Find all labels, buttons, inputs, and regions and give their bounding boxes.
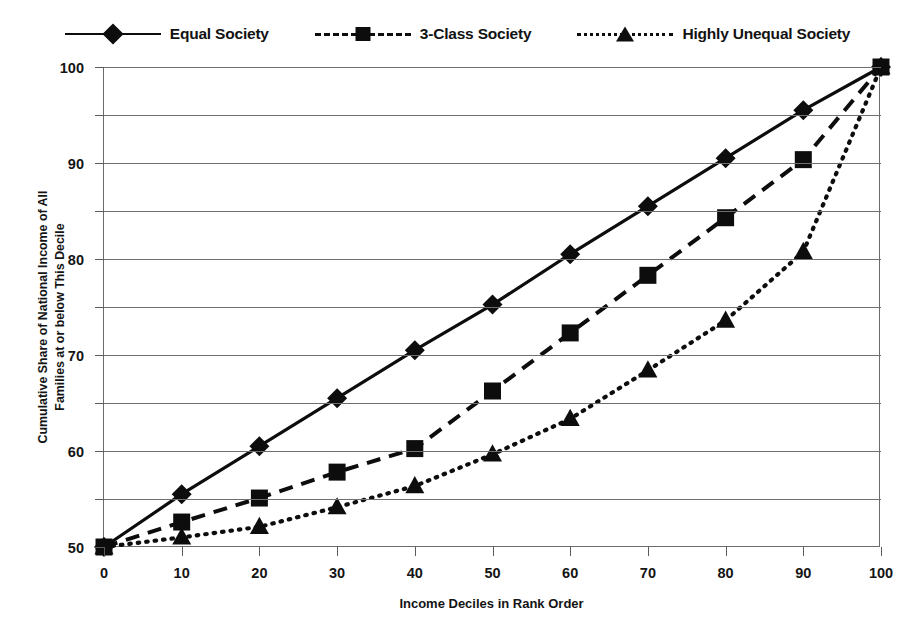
chart-figure: Equal Society3-Class SocietyHighly Unequ…: [0, 0, 915, 634]
x-tick-label-80: 80: [718, 565, 734, 581]
x-tick-100: [881, 547, 882, 556]
x-tick-40: [415, 547, 416, 556]
data-point-marker-triangle: [794, 242, 813, 259]
data-point-marker-triangle: [638, 360, 657, 377]
x-tick-70: [648, 547, 649, 556]
x-tick-60: [570, 547, 571, 556]
x-tick-label-90: 90: [795, 565, 811, 581]
y-tick-70: 70: [95, 211, 104, 212]
y-tick-label-100: 100: [60, 60, 84, 76]
gridline-y-90: [104, 115, 881, 116]
chart-legend: Equal Society3-Class SocietyHighly Unequ…: [0, 16, 915, 52]
gridline-y-60: [104, 259, 881, 260]
y-tick-label-50: 50: [68, 540, 84, 556]
y-tick-0: 0: [95, 547, 104, 548]
y-tick-label-60: 60: [68, 444, 84, 460]
data-point-marker-square: [562, 324, 579, 341]
x-tick-label-60: 60: [562, 565, 578, 581]
data-point-marker-diamond: [249, 436, 269, 456]
legend-swatch-square-icon: [315, 23, 411, 45]
data-point-marker-diamond: [405, 340, 425, 360]
legend-swatch-diamond-icon: [65, 23, 161, 45]
y-tick-label-70: 70: [68, 348, 84, 364]
y-tick-90: 90: [95, 115, 104, 116]
data-point-marker-square: [484, 383, 501, 400]
x-tick-20: [259, 547, 260, 556]
x-tick-label-40: 40: [407, 565, 423, 581]
data-point-marker-diamond: [638, 196, 658, 216]
data-point-marker-diamond: [560, 244, 580, 264]
y-tick-label-90: 90: [68, 156, 84, 172]
legend-marker-diamond-icon: [102, 23, 123, 44]
gridline-y-100: [104, 67, 881, 68]
data-point-marker-square: [795, 151, 812, 168]
legend-item-label: Equal Society: [170, 25, 269, 43]
legend-item-1[interactable]: 3-Class Society: [315, 23, 532, 45]
x-tick-10: [182, 547, 183, 556]
x-tick-0: [104, 547, 105, 556]
data-point-marker-diamond: [172, 484, 192, 504]
x-tick-label-20: 20: [251, 565, 267, 581]
y-tick-20: 20: [95, 451, 104, 452]
x-tick-label-10: 10: [174, 565, 190, 581]
gridline-y-10: [104, 499, 881, 500]
legend-marker-triangle-icon: [616, 27, 634, 42]
x-tick-label-50: 50: [484, 565, 500, 581]
data-point-marker-diamond: [327, 388, 347, 408]
x-tick-label-30: 30: [329, 565, 345, 581]
data-point-marker-square: [639, 267, 656, 284]
plot-area: 0102030405060708090100010203040506070809…: [103, 67, 880, 547]
y-tick-label-80: 80: [68, 252, 84, 268]
gridline-y-50: [104, 307, 881, 308]
y-tick-80: 80: [95, 163, 104, 164]
data-point-marker-diamond: [483, 295, 503, 315]
y-tick-40: 40: [95, 355, 104, 356]
data-point-marker-square: [406, 440, 423, 457]
y-tick-100: 100: [95, 67, 104, 68]
data-point-marker-diamond: [716, 148, 736, 168]
y-axis-label: Cumulative Share of National Income of A…: [35, 107, 69, 527]
gridline-y-30: [104, 403, 881, 404]
gridline-y-80: [104, 163, 881, 164]
x-tick-label-0: 0: [100, 565, 108, 581]
data-point-marker-triangle: [561, 409, 580, 426]
legend-item-label: 3-Class Society: [420, 25, 532, 43]
gridline-y-70: [104, 211, 881, 212]
x-tick-label-70: 70: [640, 565, 656, 581]
legend-item-label: Highly Unequal Society: [682, 25, 850, 43]
y-axis-label-line2: Families at or below This Decile: [52, 107, 69, 527]
y-axis-label-line1: Cumulative Share of National Income of A…: [36, 191, 50, 444]
y-tick-30: 30: [95, 403, 104, 404]
gridline-y-40: [104, 355, 881, 356]
x-tick-30: [337, 547, 338, 556]
gridline-y-20: [104, 451, 881, 452]
legend-swatch-triangle-icon: [577, 23, 673, 45]
y-tick-60: 60: [95, 259, 104, 260]
y-tick-50: 50: [95, 307, 104, 308]
x-axis-label: Income Deciles in Rank Order: [103, 596, 880, 611]
x-tick-label-100: 100: [869, 565, 893, 581]
y-tick-10: 10: [95, 499, 104, 500]
data-point-marker-diamond: [793, 100, 813, 120]
x-tick-90: [803, 547, 804, 556]
legend-item-0[interactable]: Equal Society: [65, 23, 269, 45]
x-tick-50: [493, 547, 494, 556]
data-point-marker-square: [329, 464, 346, 481]
legend-marker-square-icon: [355, 27, 370, 41]
legend-item-2[interactable]: Highly Unequal Society: [577, 23, 850, 45]
x-tick-80: [726, 547, 727, 556]
